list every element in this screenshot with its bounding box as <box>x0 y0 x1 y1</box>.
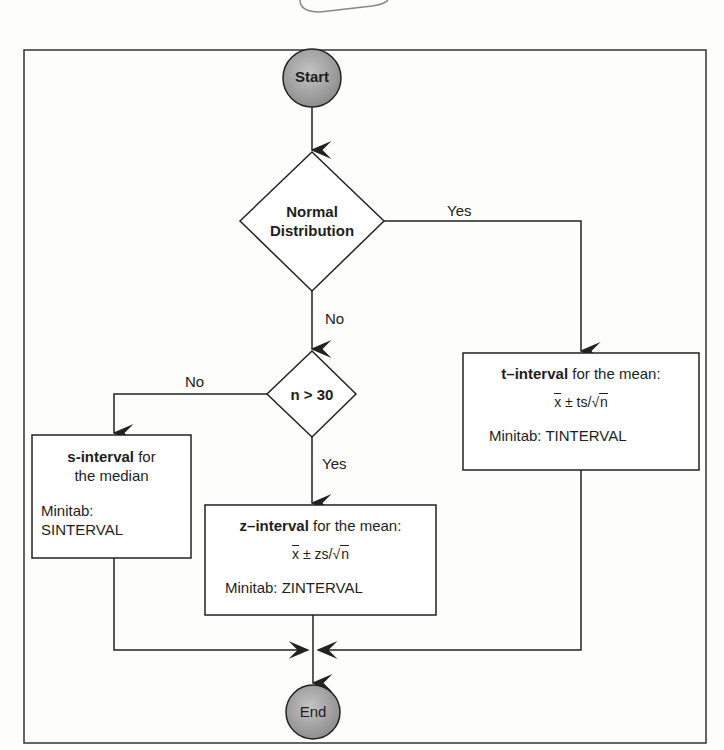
z-formula-mid: ± zs/ <box>299 546 332 562</box>
z-interval-box: z–interval for the mean: x ± zs/√n Minit… <box>205 516 436 597</box>
t-interval-minitab: Minitab: TINTERVAL <box>463 426 699 445</box>
s-interval-box: s-interval for the median Minitab: SINTE… <box>32 447 191 539</box>
end-node: End <box>283 703 343 720</box>
sqrt-icon: √ <box>332 546 340 562</box>
t-interval-title: t–interval for the mean: <box>463 364 699 383</box>
s-interval-title-rest: for <box>134 448 156 465</box>
t-formula-n: n <box>599 393 608 410</box>
z-interval-title-rest: for the mean: <box>309 517 402 534</box>
page-curl-mark <box>300 0 388 12</box>
s-interval-minitab-2: SINTERVAL <box>32 520 191 539</box>
z-interval-formula: x ± zs/√n <box>205 545 436 564</box>
normal-decision-line1: Normal <box>252 202 372 221</box>
edge-label-n-yes: Yes <box>322 455 346 472</box>
n-decision: n > 30 <box>272 385 352 404</box>
edge-label-n-no: No <box>185 373 204 390</box>
normal-decision-line2: Distribution <box>252 221 372 240</box>
start-label: Start <box>295 68 329 85</box>
edge-label-normal-no: No <box>325 310 344 327</box>
z-interval-title-bold: z–interval <box>240 517 309 534</box>
s-interval-title-bold: s-interval <box>67 448 134 465</box>
t-interval-title-bold: t–interval <box>501 365 568 382</box>
normal-decision: Normal Distribution <box>252 202 372 240</box>
t-formula-mid: ± ts/ <box>561 394 591 410</box>
s-interval-minitab-1: Minitab: <box>32 501 191 520</box>
edge-label-normal-yes: Yes <box>447 202 471 219</box>
end-label: End <box>300 703 327 720</box>
z-interval-minitab: Minitab: ZINTERVAL <box>205 578 436 597</box>
start-node: Start <box>282 68 342 85</box>
t-interval-title-rest: for the mean: <box>568 365 661 382</box>
s-interval-line2: the median <box>32 466 191 485</box>
sqrt-icon: √ <box>591 394 599 410</box>
z-formula-n: n <box>340 545 349 562</box>
z-interval-title: z–interval for the mean: <box>205 516 436 535</box>
n-decision-label: n > 30 <box>291 386 334 403</box>
s-interval-title: s-interval for <box>32 447 191 466</box>
t-interval-box: t–interval for the mean: x ± ts/√n Minit… <box>463 364 699 445</box>
t-interval-formula: x ± ts/√n <box>463 393 699 412</box>
